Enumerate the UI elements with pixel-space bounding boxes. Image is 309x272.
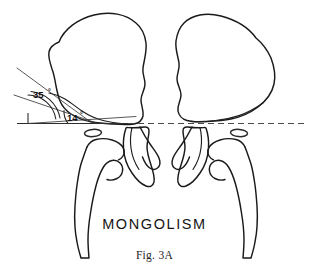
right-obturator-foramen-oval — [230, 129, 247, 137]
angle-35-degree-symbol: ° — [48, 88, 51, 95]
right-proximal-femur-outline — [209, 147, 257, 258]
left-ischium-inner-ridge — [130, 128, 139, 170]
right-femoral-head-neck — [208, 139, 245, 160]
angle-label-14: 14 ° — [67, 111, 83, 123]
angle-14-degree-symbol: ° — [80, 111, 83, 118]
left-obturator-foramen-oval — [84, 129, 101, 137]
left-femoral-head-neck — [87, 139, 124, 160]
right-ischium-inner-ridge — [193, 128, 202, 170]
angle-14-value: 14 — [67, 112, 78, 123]
right-ischium-outline — [178, 127, 209, 187]
figure-container: 35 ° 14 ° MONGOLISM Fig. 3A — [0, 0, 309, 272]
left-iliac-wing-outline — [49, 13, 146, 124]
diagram-title: MONGOLISM — [0, 216, 309, 232]
right-acetabular-roof-line — [191, 103, 263, 122]
angle-35-value: 35 — [33, 89, 44, 100]
left-ischium-outline — [123, 127, 154, 187]
figure-caption: Fig. 3A — [0, 249, 309, 261]
left-proximal-femur-outline — [75, 147, 123, 258]
